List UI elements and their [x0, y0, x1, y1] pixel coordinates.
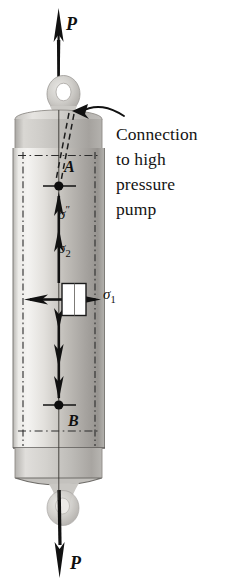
- sigma-1-subscript: 1: [110, 294, 115, 305]
- stress-element-square: [62, 284, 86, 316]
- load-label-bottom: P: [70, 553, 81, 574]
- callout-line-4: pump: [116, 197, 236, 222]
- diagram-canvas: [0, 0, 236, 588]
- sigma-2-label: σ2: [58, 240, 71, 259]
- callout-line-3: pressure: [116, 172, 236, 197]
- sigma-prime-label: σ″: [58, 203, 70, 223]
- sigma-1-label: σ1: [103, 286, 116, 305]
- sigma-2-subscript: 2: [65, 248, 70, 259]
- callout-text-block: Connection to high pressure pump: [116, 122, 236, 222]
- callout-line-1: Connection: [116, 122, 236, 147]
- sigma-prime-superscript: ″: [65, 203, 70, 215]
- point-b-label: B: [68, 412, 79, 430]
- pressure-vessel-diagram: P P A B σ″ σ2 σ1 Connection to high pres…: [0, 0, 236, 588]
- bottom-eyelet: [47, 491, 79, 526]
- point-a-label: A: [64, 158, 75, 176]
- load-label-top: P: [66, 14, 77, 35]
- callout-line-2: to high: [116, 147, 236, 172]
